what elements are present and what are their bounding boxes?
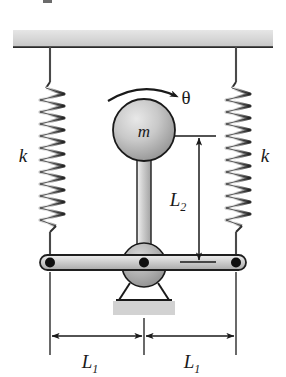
- vertical-dimension-l2: [175, 136, 216, 262]
- right-coil-spring: [226, 82, 250, 255]
- right-spring-stiffness-label: k: [261, 145, 270, 166]
- vertical-dimension-l2-label: L2: [169, 189, 187, 214]
- left-spring-stiffness-label: k: [19, 145, 28, 166]
- left-bar-pivot-point: [45, 258, 55, 268]
- figure-container: m θ k k: [0, 0, 286, 377]
- l1-left-subscript: 1: [92, 362, 98, 376]
- l1-left-base: L: [81, 351, 93, 372]
- l1-right-subscript: 1: [194, 362, 200, 376]
- l2-subscript: 2: [180, 200, 186, 214]
- center-pivot-point: [139, 258, 149, 268]
- mass-label: m: [138, 122, 150, 141]
- mechanical-system-diagram: m θ k k: [0, 0, 286, 377]
- ground-base-block: [113, 301, 175, 315]
- fixed-support-ceiling: [13, 30, 273, 47]
- clipped-caption-mark: [43, 0, 52, 3]
- right-bar-pivot-point: [231, 258, 241, 268]
- left-coil-spring: [40, 82, 64, 255]
- horizontal-dimension-l1-left-label: L1: [81, 351, 99, 376]
- l2-base: L: [169, 189, 181, 210]
- horizontal-dimension-l1-right-label: L1: [183, 351, 201, 376]
- l1-right-base: L: [183, 351, 195, 372]
- angle-label: θ: [181, 87, 190, 108]
